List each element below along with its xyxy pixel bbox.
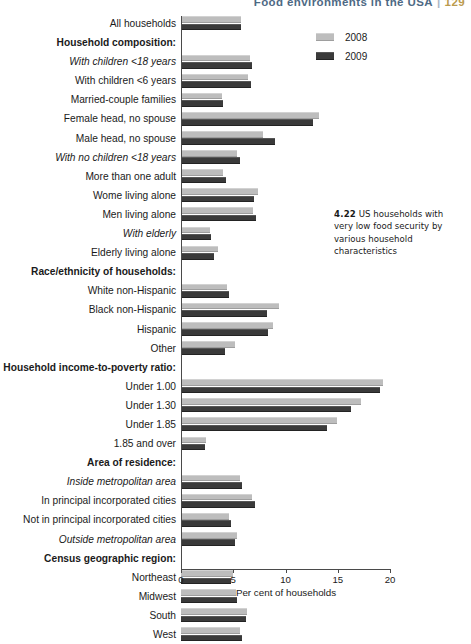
y-axis-line bbox=[181, 16, 182, 569]
bar-2008 bbox=[181, 570, 233, 577]
category-label: Hispanic bbox=[137, 320, 176, 339]
x-axis-tick-label: 15 bbox=[332, 574, 343, 585]
category-label: Black non-Hispanic bbox=[89, 300, 176, 319]
bar-2009 bbox=[181, 119, 313, 126]
category-group-label: Race/ethnicity of households: bbox=[31, 262, 176, 281]
x-axis-tick-label: 20 bbox=[385, 574, 396, 585]
category-label: With elderly bbox=[123, 224, 176, 243]
bar-2008 bbox=[181, 322, 273, 329]
bar-2009 bbox=[181, 482, 242, 489]
bar-2009 bbox=[181, 177, 226, 184]
category-label: Men living alone bbox=[102, 205, 176, 224]
category-label: Not in principal incorporated cities bbox=[23, 510, 176, 529]
chart-row: Under 1.00 bbox=[0, 377, 471, 396]
category-label: Other bbox=[151, 339, 176, 358]
category-label: With children <18 years bbox=[69, 52, 176, 71]
legend-item-2008: 2008 bbox=[316, 29, 367, 45]
chart-rows: All householdsHousehold composition:With… bbox=[0, 14, 471, 644]
bar-2008 bbox=[181, 341, 235, 348]
category-group-label: Area of residence: bbox=[87, 453, 176, 472]
category-group-label: Census geographic region: bbox=[44, 549, 176, 568]
x-axis-tick-label: 10 bbox=[280, 574, 291, 585]
category-label: Female head, no spouse bbox=[64, 109, 176, 128]
category-label: Outside metropolitan area bbox=[59, 530, 176, 549]
bar-2009 bbox=[181, 444, 205, 451]
bar-2008 bbox=[181, 246, 218, 253]
chart-legend: 2008 2009 bbox=[316, 29, 367, 67]
chart-row: Inside metropolitan area bbox=[0, 472, 471, 491]
bar-2009 bbox=[181, 539, 235, 546]
category-label: Midwest bbox=[139, 587, 176, 606]
legend-label-2009: 2009 bbox=[345, 51, 367, 62]
figure-caption: 4.22 US households with very low food se… bbox=[334, 208, 462, 258]
chart-row: Hispanic bbox=[0, 320, 471, 339]
chart-row: Not in principal incorporated cities bbox=[0, 510, 471, 529]
chart-row: White non-Hispanic bbox=[0, 281, 471, 300]
chart-row: With children <18 years bbox=[0, 52, 471, 71]
category-label: With no children <18 years bbox=[55, 148, 176, 167]
chart-row: Race/ethnicity of households: bbox=[0, 262, 471, 281]
chart-row: Under 1.30 bbox=[0, 396, 471, 415]
bar-2008 bbox=[181, 207, 253, 214]
category-group-label: Household composition: bbox=[57, 33, 176, 52]
chart-row: South bbox=[0, 606, 471, 625]
bar-2009 bbox=[181, 616, 246, 623]
x-axis-title: Per cent of households bbox=[181, 587, 391, 598]
bar-chart: All householdsHousehold composition:With… bbox=[0, 14, 471, 589]
bar-2009 bbox=[181, 520, 231, 527]
chart-row: In principal incorporated cities bbox=[0, 491, 471, 510]
category-label: 1.85 and over bbox=[114, 434, 176, 453]
figure-number: 4.22 bbox=[334, 209, 356, 219]
bar-2008 bbox=[181, 16, 241, 23]
category-label: Northeast bbox=[132, 568, 176, 587]
chart-row: Other bbox=[0, 339, 471, 358]
chart-row: Census geographic region: bbox=[0, 549, 471, 568]
bar-2009 bbox=[181, 157, 240, 164]
category-label: Elderly living alone bbox=[91, 243, 176, 262]
bar-2008 bbox=[181, 169, 223, 176]
bar-2009 bbox=[181, 196, 254, 203]
running-header-separator: | bbox=[437, 0, 441, 8]
legend-swatch-2009 bbox=[316, 52, 334, 60]
chart-row: Household composition: bbox=[0, 33, 471, 52]
bar-2008 bbox=[181, 303, 279, 310]
chart-row: Household income-to-poverty ratio: bbox=[0, 358, 471, 377]
bar-2009 bbox=[181, 310, 267, 317]
category-label: In principal incorporated cities bbox=[41, 491, 176, 510]
chart-row: Married-couple families bbox=[0, 90, 471, 109]
x-axis-tick bbox=[181, 569, 182, 573]
x-axis-tick bbox=[286, 569, 287, 573]
bar-2008 bbox=[181, 93, 222, 100]
bar-2008 bbox=[181, 608, 247, 615]
bar-2009 bbox=[181, 138, 275, 145]
bar-2009 bbox=[181, 62, 252, 69]
bar-2009 bbox=[181, 81, 251, 88]
bar-2008 bbox=[181, 627, 240, 634]
bar-2008 bbox=[181, 532, 237, 539]
bar-2008 bbox=[181, 74, 248, 81]
bar-2009 bbox=[181, 24, 241, 31]
category-label: White non-Hispanic bbox=[88, 281, 176, 300]
category-label: With children <6 years bbox=[75, 71, 176, 90]
bar-2009 bbox=[181, 253, 214, 260]
bar-2008 bbox=[181, 284, 227, 291]
category-label: Male head, no spouse bbox=[76, 129, 176, 148]
bar-2008 bbox=[181, 475, 240, 482]
x-axis-tick-label: 5 bbox=[231, 574, 236, 585]
chart-row: Female head, no spouse bbox=[0, 109, 471, 128]
legend-swatch-2008 bbox=[316, 33, 334, 41]
bar-2009 bbox=[181, 501, 255, 508]
bar-2009 bbox=[181, 425, 327, 432]
bar-2008 bbox=[181, 55, 250, 62]
category-label: Under 1.85 bbox=[126, 415, 176, 434]
chart-row: Wome living alone bbox=[0, 186, 471, 205]
bar-2009 bbox=[181, 406, 351, 413]
bar-2009 bbox=[181, 348, 225, 355]
bar-2008 bbox=[181, 417, 337, 424]
chart-row: 1.85 and over bbox=[0, 434, 471, 453]
chart-row: Area of residence: bbox=[0, 453, 471, 472]
bar-2009 bbox=[181, 387, 380, 394]
chart-row: Black non-Hispanic bbox=[0, 300, 471, 319]
category-group-label: Household income-to-poverty ratio: bbox=[3, 358, 176, 377]
bar-2008 bbox=[181, 131, 263, 138]
